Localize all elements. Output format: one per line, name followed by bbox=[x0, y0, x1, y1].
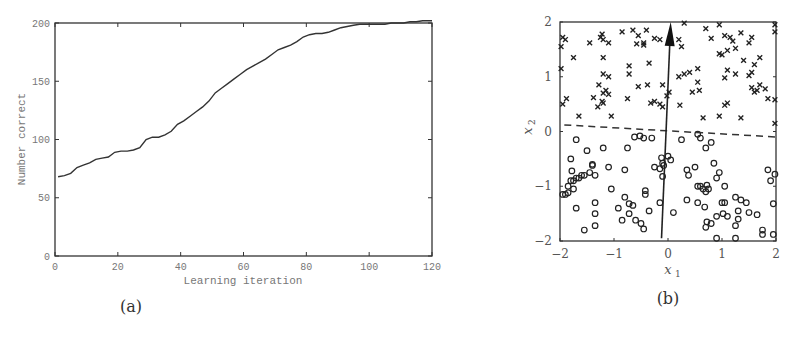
circle-marker bbox=[703, 225, 709, 231]
y-tick-label: 0 bbox=[44, 252, 50, 263]
cross-marker bbox=[560, 102, 565, 107]
cross-marker bbox=[739, 31, 744, 36]
cross-marker bbox=[701, 115, 706, 120]
panel-b-caption: (b) bbox=[657, 289, 680, 308]
circle-marker bbox=[702, 204, 708, 210]
y-tick-label: 150 bbox=[32, 77, 50, 88]
cross-marker bbox=[695, 66, 700, 71]
circle-marker bbox=[733, 194, 739, 200]
circle-marker bbox=[746, 210, 752, 216]
plot-frame-a bbox=[55, 23, 432, 256]
cross-marker bbox=[752, 62, 757, 67]
circle-marker bbox=[708, 140, 714, 146]
circle-marker bbox=[573, 205, 579, 211]
cross-marker bbox=[595, 104, 600, 109]
y-tick-label: −2 bbox=[534, 234, 552, 248]
circle-marker bbox=[703, 145, 709, 151]
x-axis-label-subscript: 1 bbox=[675, 269, 681, 279]
circle-marker bbox=[626, 211, 632, 217]
x-tick-label: 0 bbox=[664, 247, 672, 261]
cross-marker bbox=[636, 84, 641, 89]
cross-marker bbox=[571, 55, 576, 60]
cross-marker bbox=[725, 68, 730, 73]
x-tick-label: 40 bbox=[175, 262, 187, 273]
circle-marker bbox=[592, 211, 598, 217]
circle-marker bbox=[725, 214, 731, 220]
y-tick-label: 50 bbox=[38, 193, 50, 204]
y-tick-label: 0 bbox=[544, 125, 552, 139]
y-tick-label: 1 bbox=[544, 70, 552, 84]
panel-a-line-chart: 020406080100120 050100150200 Learning it… bbox=[16, 19, 441, 317]
cross-marker bbox=[644, 28, 649, 33]
y-tick-label: 100 bbox=[32, 135, 50, 146]
circle-marker bbox=[582, 227, 588, 233]
cross-marker bbox=[601, 37, 606, 42]
circle-marker bbox=[587, 170, 593, 176]
x-tick-label: 0 bbox=[52, 262, 58, 273]
cross-marker bbox=[606, 40, 611, 45]
cross-marker bbox=[730, 39, 735, 44]
y-axis-label-b: x bbox=[520, 127, 535, 135]
circle-marker bbox=[573, 137, 579, 143]
cross-marker bbox=[587, 40, 592, 45]
circle-marker bbox=[686, 173, 692, 179]
plot-frame-b bbox=[560, 22, 776, 241]
cross-marker bbox=[749, 85, 754, 90]
circle-marker bbox=[638, 221, 644, 227]
circle-marker bbox=[659, 155, 665, 161]
circle-marker bbox=[671, 210, 677, 216]
class-negative-circles bbox=[560, 131, 778, 241]
cross-marker bbox=[676, 37, 681, 42]
cross-marker bbox=[690, 90, 695, 95]
circle-marker bbox=[657, 200, 663, 206]
circle-marker bbox=[600, 145, 606, 151]
arrow-head-icon bbox=[665, 22, 675, 46]
cross-marker bbox=[660, 83, 665, 88]
cross-marker bbox=[563, 37, 568, 42]
cross-marker bbox=[717, 22, 722, 27]
cross-marker bbox=[601, 101, 606, 106]
circle-marker bbox=[768, 178, 774, 184]
number-correct-line bbox=[58, 21, 432, 177]
circle-marker bbox=[717, 170, 723, 176]
circle-marker bbox=[722, 183, 728, 189]
cross-marker bbox=[728, 35, 733, 40]
cross-marker bbox=[733, 46, 738, 51]
circle-marker bbox=[592, 223, 598, 229]
cross-marker bbox=[645, 83, 650, 88]
x-tick-label: 100 bbox=[360, 262, 378, 273]
x-tick-label: 120 bbox=[423, 262, 441, 273]
circle-marker bbox=[569, 168, 575, 174]
circle-marker bbox=[592, 200, 598, 206]
cross-marker bbox=[722, 33, 727, 38]
circle-marker bbox=[641, 226, 647, 232]
cross-marker bbox=[596, 83, 601, 88]
cross-marker bbox=[709, 36, 714, 41]
cross-marker bbox=[591, 95, 596, 100]
cross-marker bbox=[757, 55, 762, 60]
cross-marker bbox=[627, 63, 632, 68]
cross-marker bbox=[749, 70, 754, 75]
cross-marker bbox=[577, 114, 582, 119]
cross-marker bbox=[609, 114, 614, 119]
cross-marker bbox=[634, 42, 639, 47]
circle-marker bbox=[616, 205, 622, 211]
circle-marker bbox=[584, 148, 590, 154]
cross-marker bbox=[679, 44, 684, 49]
cross-marker bbox=[722, 75, 727, 80]
circle-marker bbox=[735, 208, 741, 214]
panel-b-scatter-chart: −2−1012 −2−1012 x x 1 2 (b) bbox=[520, 15, 780, 308]
cross-marker bbox=[747, 40, 752, 45]
circle-marker bbox=[568, 156, 574, 162]
cross-marker bbox=[601, 72, 606, 77]
circle-marker bbox=[592, 173, 598, 179]
x-tick-label: 20 bbox=[112, 262, 124, 273]
circle-marker bbox=[733, 235, 739, 241]
circle-marker bbox=[652, 164, 658, 170]
circle-marker bbox=[733, 223, 739, 229]
circle-marker bbox=[643, 188, 649, 194]
x-axis-label-a: Learning iteration bbox=[184, 275, 303, 287]
cross-marker bbox=[647, 61, 652, 66]
circle-marker bbox=[646, 208, 652, 214]
cross-marker bbox=[631, 28, 636, 33]
